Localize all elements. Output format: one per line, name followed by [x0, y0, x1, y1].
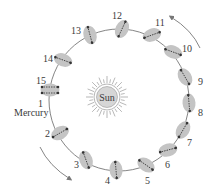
mercury-position-2: 2: [45, 123, 71, 144]
mercury-position-8: 8: [182, 93, 203, 118]
mercury-position-7: 7: [173, 119, 194, 148]
position-label: 6: [165, 159, 170, 170]
position-label: 11: [155, 17, 165, 28]
mercury-position-9: 9: [175, 66, 203, 89]
position-label: 14: [43, 53, 53, 64]
planet-label: Mercury: [14, 107, 48, 118]
position-label: 12: [112, 10, 122, 21]
mercury-position-3: 3: [74, 149, 95, 171]
mercury-position-6: 6: [157, 141, 179, 170]
mercury-position-4: 4: [105, 160, 123, 186]
position-label: 13: [71, 25, 81, 36]
mercury-position-10: 10: [162, 43, 192, 62]
position-label: 2: [45, 128, 50, 139]
position-label: 3: [74, 159, 79, 170]
position-label: 5: [145, 175, 150, 186]
mercury-position-5: 5: [134, 154, 157, 186]
sun-label: Sun: [99, 92, 115, 103]
position-label: 7: [187, 137, 192, 148]
mercury-position-14: 14: [43, 51, 74, 70]
position-label: 9: [198, 76, 203, 87]
position-label: 4: [105, 175, 110, 186]
mercury-position-13: 13: [71, 24, 99, 46]
mercury-position-12: 12: [112, 10, 132, 40]
mercury-position-11: 11: [141, 17, 165, 44]
position-label: 8: [198, 107, 203, 118]
mercury-orbit-diagram: Sun 123456789101112131415 Mercury: [0, 0, 213, 196]
position-label: 10: [182, 43, 192, 54]
direction-arrow-bottom: [40, 147, 70, 179]
position-label: 15: [36, 75, 46, 86]
